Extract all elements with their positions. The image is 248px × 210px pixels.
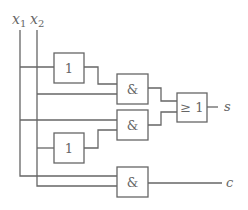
wire-not2-and2 xyxy=(84,130,117,148)
or-gate: ≥ 1 xyxy=(177,93,207,122)
input-label-x1: x1 xyxy=(12,11,26,29)
not-gate-2: 1 xyxy=(54,133,84,163)
and-gate-3: & xyxy=(117,167,148,197)
not-gate-1: 1 xyxy=(54,53,84,83)
output-label-s: s xyxy=(224,99,231,114)
wire-and1-or xyxy=(148,88,177,101)
svg-text:&: & xyxy=(127,82,139,97)
wire-and2-or xyxy=(148,112,177,125)
svg-text:1: 1 xyxy=(65,61,73,76)
wire-not1-and1 xyxy=(84,67,117,84)
and-gate-1: & xyxy=(117,74,148,104)
output-label-c: c xyxy=(226,175,234,190)
input-label-x2: x2 xyxy=(30,11,44,29)
svg-text:&: & xyxy=(127,175,139,190)
svg-text:&: & xyxy=(127,118,139,133)
svg-text:≥ 1: ≥ 1 xyxy=(180,100,203,115)
and-gate-2: & xyxy=(117,110,148,140)
svg-text:1: 1 xyxy=(65,141,73,156)
logic-circuit: x1 x2 1 & & 1 ≥ 1 & s c xyxy=(0,0,248,210)
